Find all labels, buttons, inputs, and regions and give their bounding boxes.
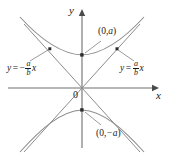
asymptote-right-fraction: ab	[133, 60, 139, 78]
vertex-label-top-open: (0,	[98, 26, 108, 36]
hyperbola-figure: y x 0 (0,a) (0,−a) y=−abx y=abx	[0, 0, 172, 156]
asymptote-left-lhs: y	[7, 63, 11, 73]
asymptote-left-fraction: ab	[25, 60, 31, 78]
vertex-dot-top	[80, 53, 83, 56]
vertex-label-bottom-open: (0,	[96, 128, 106, 138]
asymptote-label-left: y=−abx	[7, 60, 36, 78]
asymptote-left-marker-dot	[48, 47, 51, 50]
asymptote-right-numerator: a	[133, 60, 139, 68]
y-axis-arrowhead	[79, 9, 85, 16]
asymptote-left-equals: =	[13, 63, 18, 73]
vertex-label-top: (0,a)	[98, 27, 116, 37]
asymptote-right-variable: x	[140, 63, 144, 73]
vertex-label-top-close: )	[113, 26, 116, 36]
vertex-label-bottom: (0,−a)	[96, 129, 121, 139]
origin-label: 0	[73, 90, 78, 100]
asymptote-left-numerator: a	[25, 60, 31, 68]
y-axis	[79, 9, 85, 148]
asymptote-left-sign: −	[20, 63, 25, 73]
y-axis-label: y	[69, 5, 74, 16]
asymptote-left-variable: x	[32, 63, 36, 73]
asymptote-right-denominator: b	[133, 68, 139, 77]
asymptote-right-marker-dot	[116, 47, 119, 50]
asymptote-right-lhs: y	[120, 63, 124, 73]
asymptote-label-right: y=abx	[120, 60, 144, 78]
vertex-label-bottom-value: −a	[106, 128, 117, 138]
figure-canvas	[0, 0, 172, 156]
asymptote-left-denominator: b	[25, 68, 31, 77]
x-axis-label: x	[156, 90, 161, 101]
vertex-dot-bottom	[80, 108, 83, 111]
vertex-label-bottom-close: )	[117, 128, 120, 138]
asymptote-right-equals: =	[126, 63, 131, 73]
